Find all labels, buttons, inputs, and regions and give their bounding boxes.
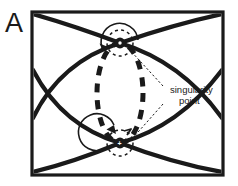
singularity-core-plus-bottom: + <box>118 140 122 147</box>
panel-letter-a: A <box>5 8 23 38</box>
singularity-label-line1: singularity <box>170 84 213 95</box>
diagram-canvas: A <box>0 0 238 186</box>
singularity-label-line2: point <box>179 95 200 106</box>
singularity-core-center-top <box>118 41 121 44</box>
figure-panel-a: A <box>0 0 238 186</box>
